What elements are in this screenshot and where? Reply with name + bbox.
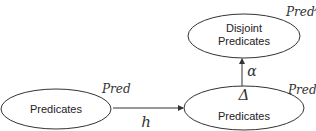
annotation-pred: Pred xyxy=(101,82,131,96)
node-label-line2: Predicates xyxy=(218,35,270,47)
delta-symbol: Δ xyxy=(238,86,250,104)
edge-label-alpha: α xyxy=(247,63,257,79)
node-predicates-right: Δ Predicates xyxy=(184,86,304,130)
edge-label-h: h xyxy=(141,113,151,131)
node-predicates-left: Predicates xyxy=(1,89,111,129)
edge-h: h xyxy=(113,108,183,131)
node-disjoint-predicates: Disjoint Predicates xyxy=(188,14,300,58)
annotation-pred-exists: Pred∃ xyxy=(287,82,316,97)
node-label: Predicates xyxy=(218,110,270,122)
edge-alpha: α xyxy=(242,59,257,86)
diagram-canvas: Predicates Pred Δ Predicates Pred∃ Disjo… xyxy=(0,0,316,131)
annotation-pred-a: PredA xyxy=(285,4,316,19)
node-label: Predicates xyxy=(30,103,82,115)
node-label-line1: Disjoint xyxy=(226,22,262,34)
